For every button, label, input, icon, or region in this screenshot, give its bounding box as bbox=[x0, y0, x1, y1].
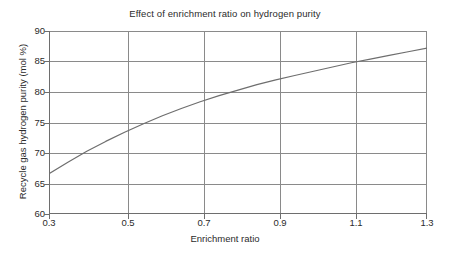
data-series-curve bbox=[49, 31, 427, 214]
chart-screenshot: Effect of enrichment ratio on hydrogen p… bbox=[0, 0, 450, 261]
y-tick-label-80: 80 bbox=[5, 87, 45, 97]
y-tick-label-70: 70 bbox=[5, 148, 45, 158]
x-axis-label: Enrichment ratio bbox=[0, 233, 450, 244]
y-tick-label-75: 75 bbox=[5, 118, 45, 128]
chart-title: Effect of enrichment ratio on hydrogen p… bbox=[0, 8, 450, 19]
y-tick-label-90: 90 bbox=[5, 26, 45, 36]
plot-area bbox=[49, 31, 427, 214]
x-tick-label-0.7: 0.7 bbox=[184, 217, 224, 228]
x-tick-label-0.9: 0.9 bbox=[260, 217, 300, 228]
y-tick-label-65: 65 bbox=[5, 179, 45, 189]
x-tick-label-0.3: 0.3 bbox=[29, 217, 69, 228]
x-tick-label-1.3: 1.3 bbox=[407, 217, 447, 228]
x-tick-label-0.5: 0.5 bbox=[108, 217, 148, 228]
y-tick-label-85: 85 bbox=[5, 56, 45, 66]
x-tick-label-1.1: 1.1 bbox=[336, 217, 376, 228]
